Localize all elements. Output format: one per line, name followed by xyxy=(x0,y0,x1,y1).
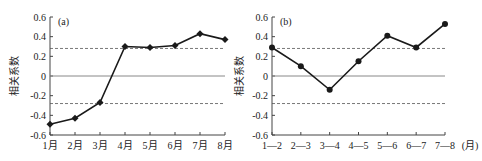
data-point-marker xyxy=(147,44,154,51)
chart-figure: 0.60.40.20-0.2-0.4-0.6相关系数1月2月3月4月5月6月7月… xyxy=(0,0,482,161)
data-series-line xyxy=(272,24,445,90)
x-tick-label: 6—7 xyxy=(406,140,426,151)
y-axis-label: 相关系数 xyxy=(8,56,20,96)
y-tick-label: 0 xyxy=(263,71,268,82)
y-tick-label: 0.6 xyxy=(256,12,269,23)
x-axis-unit-label: (月) xyxy=(462,140,479,152)
y-tick-label: 0.6 xyxy=(34,12,47,23)
x-tick-label: 1—2 xyxy=(262,140,282,151)
data-point-marker xyxy=(172,42,179,49)
x-tick-label: 5—6 xyxy=(377,140,397,151)
y-tick-label: -0.4 xyxy=(252,110,268,121)
y-tick-label: 0 xyxy=(41,71,46,82)
y-tick-label: -0.2 xyxy=(30,90,46,101)
y-tick-label: -0.6 xyxy=(252,130,268,141)
x-tick-label: 6月 xyxy=(168,140,183,151)
x-tick-label: 4—5 xyxy=(349,140,369,151)
x-tick-label: 3月 xyxy=(93,140,108,151)
data-point-marker xyxy=(384,33,390,39)
y-axis-label: 相关系数 xyxy=(233,56,245,96)
panel-a: 0.60.40.20-0.2-0.4-0.6相关系数1月2月3月4月5月6月7月… xyxy=(8,12,233,152)
data-point-marker xyxy=(298,63,304,69)
x-tick-label: 7月 xyxy=(193,140,208,151)
y-tick-label: 0.4 xyxy=(256,31,269,42)
data-point-marker xyxy=(222,36,229,43)
panel-b: 0.60.40.20-0.2-0.4-0.6相关系数1—22—33—44—55—… xyxy=(233,12,478,153)
x-tick-label: 3—4 xyxy=(320,140,340,151)
panel-label: (a) xyxy=(58,16,69,28)
x-tick-label: 4月 xyxy=(118,140,133,151)
data-point-marker xyxy=(356,58,362,64)
y-tick-label: -0.4 xyxy=(30,110,46,121)
y-tick-label: -0.2 xyxy=(252,90,268,101)
data-point-marker xyxy=(442,21,448,27)
y-tick-label: -0.6 xyxy=(30,130,46,141)
panel-label: (b) xyxy=(280,16,292,28)
data-point-marker xyxy=(269,44,275,50)
data-point-marker xyxy=(122,43,129,50)
x-tick-label: 2—3 xyxy=(291,140,311,151)
y-tick-label: 0.4 xyxy=(34,31,47,42)
x-tick-label: 2月 xyxy=(68,140,83,151)
data-point-marker xyxy=(197,30,204,37)
data-point-marker xyxy=(327,87,333,93)
x-tick-label: 1月 xyxy=(43,140,58,151)
data-point-marker xyxy=(413,44,419,50)
data-point-marker xyxy=(47,121,54,128)
y-tick-label: 0.2 xyxy=(256,51,269,62)
x-tick-label: 5月 xyxy=(143,140,158,151)
y-tick-label: 0.2 xyxy=(34,51,47,62)
data-series-line xyxy=(50,34,225,124)
x-tick-label: 7—8 xyxy=(435,140,455,151)
x-tick-label: 8月 xyxy=(218,140,233,151)
